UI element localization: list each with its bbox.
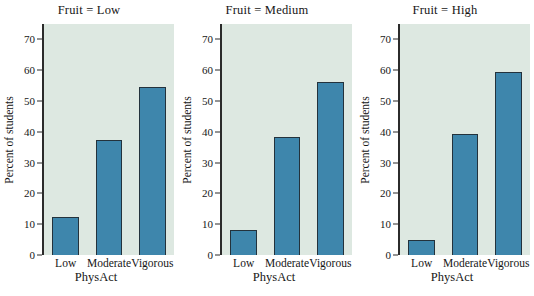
y-axis-title-text: Percent of students: [3, 96, 15, 184]
x-axis-title: PhysAct: [196, 270, 352, 285]
chart-panel-medium: Fruit = MediumPercent of students0102030…: [178, 0, 356, 296]
y-axis-ticks: 010203040506070: [374, 24, 398, 256]
bar-low: [230, 230, 257, 255]
y-tick-label: 20: [24, 187, 35, 199]
bar-moderate: [274, 137, 301, 255]
x-tick-label-vigorous: Vigorous: [131, 257, 173, 269]
x-tick-label-low: Low: [233, 257, 254, 269]
x-tick-label-vigorous: Vigorous: [487, 257, 529, 269]
y-axis-title: Percent of students: [357, 26, 373, 254]
x-tick-label-low: Low: [55, 257, 76, 269]
y-tick-label: 30: [202, 157, 213, 169]
x-tick-label-vigorous: Vigorous: [309, 257, 351, 269]
y-tick-label: 10: [380, 218, 391, 230]
y-tick-label: 30: [24, 157, 35, 169]
y-tick-label: 40: [380, 126, 391, 138]
plot-area-wrapper: 010203040506070LowModerateVigorous: [374, 24, 530, 256]
bar-vigorous: [495, 72, 522, 255]
chart-panel-low: Fruit = LowPercent of students0102030405…: [0, 0, 178, 296]
plot-area-wrapper: 010203040506070LowModerateVigorous: [196, 24, 352, 256]
y-tick-label: 50: [380, 95, 391, 107]
plot-area-wrapper: 010203040506070LowModerateVigorous: [18, 24, 174, 256]
y-tick-label: 0: [30, 249, 36, 261]
bar-vigorous: [317, 82, 344, 255]
bar-low: [408, 240, 435, 255]
x-tick-label-moderate: Moderate: [265, 257, 309, 269]
bar-low: [52, 217, 79, 255]
y-tick-label: 40: [202, 126, 213, 138]
bar-moderate: [452, 134, 479, 255]
y-axis-ticks: 010203040506070: [196, 24, 220, 256]
y-tick-label: 20: [380, 187, 391, 199]
y-tick-label: 50: [24, 95, 35, 107]
x-tick-label-moderate: Moderate: [443, 257, 487, 269]
panel-strip-label: Fruit = Medium: [178, 3, 356, 18]
plot-background: [222, 24, 352, 255]
x-axis-title: PhysAct: [374, 270, 530, 285]
y-axis-title: Percent of students: [179, 26, 195, 254]
y-axis-title-text: Percent of students: [181, 96, 193, 184]
y-tick-label: 0: [208, 249, 214, 261]
y-tick-label: 60: [24, 64, 35, 76]
bar-vigorous: [139, 87, 166, 255]
y-tick-label: 0: [386, 249, 392, 261]
panel-strip-label: Fruit = Low: [0, 3, 178, 18]
y-tick-label: 40: [24, 126, 35, 138]
plot-background: [400, 24, 530, 255]
y-axis-ticks: 010203040506070: [18, 24, 42, 256]
y-tick-label: 20: [202, 187, 213, 199]
facet-bar-chart-figure: Fruit = LowPercent of students0102030405…: [0, 0, 534, 296]
y-tick-label: 70: [24, 33, 35, 45]
y-axis-title-text: Percent of students: [359, 96, 371, 184]
bar-moderate: [96, 140, 123, 255]
y-tick-label: 60: [202, 64, 213, 76]
plot-background: [44, 24, 174, 255]
x-axis-title: PhysAct: [18, 270, 174, 285]
y-tick-label: 70: [380, 33, 391, 45]
y-tick-label: 70: [202, 33, 213, 45]
y-tick-label: 50: [202, 95, 213, 107]
y-axis-title: Percent of students: [1, 26, 17, 254]
y-tick-label: 60: [380, 64, 391, 76]
y-tick-label: 10: [24, 218, 35, 230]
chart-panel-high: Fruit = HighPercent of students010203040…: [356, 0, 534, 296]
x-tick-label-low: Low: [411, 257, 432, 269]
y-tick-label: 10: [202, 218, 213, 230]
panel-strip-label: Fruit = High: [356, 3, 534, 18]
x-tick-label-moderate: Moderate: [87, 257, 131, 269]
y-tick-label: 30: [380, 157, 391, 169]
